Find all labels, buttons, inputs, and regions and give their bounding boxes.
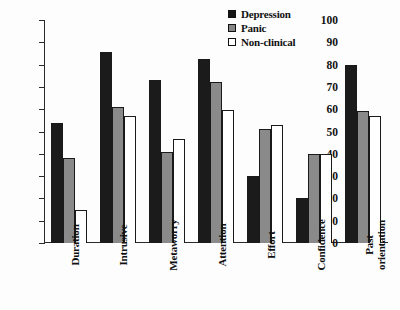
x-axis-tick-text: Metaworry <box>167 219 179 270</box>
x-axis-tick-text: Duration <box>69 224 81 265</box>
x-axis-tick-label: Confidence <box>292 243 336 310</box>
bar-chart-figure: Depression Panic Non-clinical 0102030405… <box>0 0 400 310</box>
bar-group <box>247 20 283 243</box>
legend-item-non-clinical: Non-clinical <box>228 36 295 48</box>
bar <box>271 125 283 243</box>
gray-square-icon <box>228 24 236 32</box>
bar <box>51 123 63 243</box>
x-axis-tick-text: Past orientation <box>363 214 387 276</box>
black-square-icon <box>228 10 236 18</box>
bar <box>345 65 357 243</box>
x-axis-tick-label: Metaworry <box>145 243 189 310</box>
bar-group <box>198 20 234 243</box>
bar-group <box>51 20 87 243</box>
x-axis-tick-label: Past orientation <box>341 243 385 310</box>
x-axis-tick-label: Attention <box>194 243 238 310</box>
bar <box>259 129 271 243</box>
x-axis-tick-text: Effort <box>265 231 277 259</box>
x-axis-labels: DurationIntrusiveMetaworryAttentionEffor… <box>44 243 388 310</box>
bar <box>149 80 161 243</box>
bar <box>247 176 259 243</box>
bar-group <box>296 20 332 243</box>
bar-group <box>100 20 136 243</box>
bar <box>100 52 112 243</box>
x-axis-tick-text: Intrusive <box>118 225 130 266</box>
x-axis-tick-text: Attention <box>216 224 228 267</box>
bar-group <box>345 20 381 243</box>
bar-group <box>149 20 185 243</box>
legend-item-panic: Panic <box>228 22 295 34</box>
x-axis-tick-text: Confidence <box>314 219 326 270</box>
legend-label-depression: Depression <box>241 9 291 20</box>
legend-label-panic: Panic <box>241 23 266 34</box>
bar <box>198 59 210 243</box>
bar-groups <box>44 20 388 243</box>
legend-label-non-clinical: Non-clinical <box>241 37 295 48</box>
x-axis-tick-label: Intrusive <box>96 243 140 310</box>
bar <box>296 198 308 243</box>
bar <box>210 82 222 243</box>
bar <box>112 107 124 243</box>
chart-legend: Depression Panic Non-clinical <box>228 8 295 48</box>
legend-item-depression: Depression <box>228 8 295 20</box>
x-axis-tick-label: Duration <box>47 243 91 310</box>
x-axis-tick-label: Effort <box>243 243 287 310</box>
white-square-icon <box>228 38 236 46</box>
